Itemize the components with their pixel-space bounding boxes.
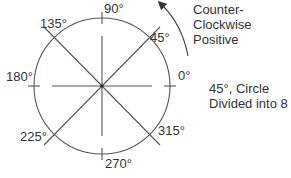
label-180-degrees: 180° (6, 70, 33, 84)
label-135-degrees: 135° (40, 17, 67, 31)
label-90-degrees: 90° (104, 2, 124, 16)
label-315-degrees: 315° (158, 124, 185, 138)
center-point (100, 84, 103, 87)
direction-note-line3: Positive (193, 32, 252, 47)
division-note-line2: Divided into 8 (209, 96, 288, 111)
label-0-degrees: 0° (178, 69, 190, 83)
division-note: 45°, Circle Divided into 8 (209, 81, 288, 111)
direction-note: Counter- Clockwise Positive (193, 2, 252, 47)
label-45-degrees: 45° (150, 31, 170, 45)
direction-note-line1: Counter- (193, 2, 252, 17)
division-note-line1: 45°, Circle (209, 81, 288, 96)
direction-note-line2: Clockwise (193, 17, 252, 32)
label-225-degrees: 225° (20, 130, 47, 144)
label-270-degrees: 270° (105, 157, 132, 171)
